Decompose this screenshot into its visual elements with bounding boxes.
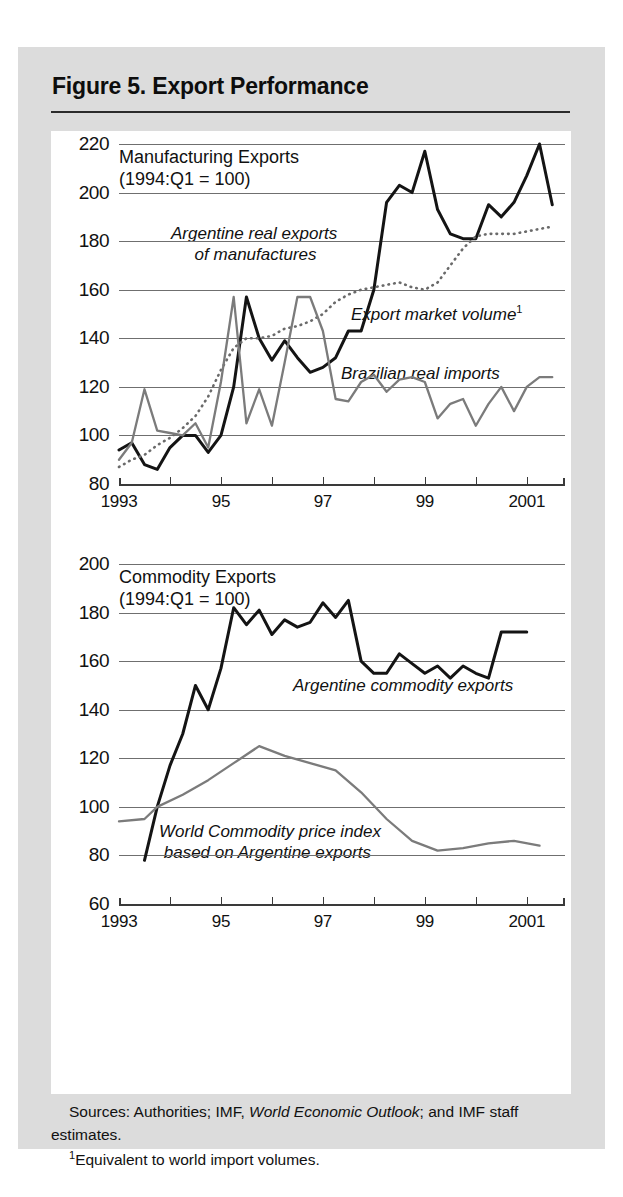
y-axis-tick-label: 80 bbox=[89, 844, 109, 866]
x-axis-tick-label: 1993 bbox=[101, 912, 138, 932]
sources-prefix: Sources: Authorities; IMF, bbox=[69, 1103, 249, 1120]
y-axis-tick-label: 100 bbox=[79, 424, 109, 446]
x-axis-tick-label: 97 bbox=[314, 912, 332, 932]
figure-notes: Sources: Authorities; IMF, World Economi… bbox=[51, 1100, 571, 1171]
chart-manufacturing-exports: Manufacturing Exports (1994:Q1 = 100) Ar… bbox=[51, 131, 571, 551]
title-divider bbox=[51, 111, 570, 113]
page-title: Figure 5. Export Performance bbox=[52, 73, 369, 100]
footnote-1: 1Equivalent to world import volumes. bbox=[51, 1147, 571, 1171]
x-axis-tick-label: 1993 bbox=[101, 492, 138, 512]
chart-commodity-exports: Commodity Exports (1994:Q1 = 100) Argent… bbox=[51, 551, 571, 1001]
y-axis-tick-label: 120 bbox=[79, 747, 109, 769]
y-axis-tick-label: 100 bbox=[79, 796, 109, 818]
series-line-3 bbox=[119, 297, 552, 460]
sources-note: Sources: Authorities; IMF, World Economi… bbox=[51, 1100, 571, 1147]
series-line-1 bbox=[144, 600, 526, 860]
y-axis-tick-label: 120 bbox=[79, 376, 109, 398]
series-line-2 bbox=[119, 227, 552, 467]
x-axis-tick-label: 2001 bbox=[508, 912, 545, 932]
sources-publication: World Economic Outlook bbox=[249, 1103, 420, 1120]
x-axis-tick-label: 99 bbox=[416, 912, 434, 932]
figure-panel: Figure 5. Export Performance Manufacturi… bbox=[18, 47, 605, 1149]
series-layer bbox=[119, 144, 565, 486]
y-axis-tick-label: 160 bbox=[79, 279, 109, 301]
y-axis-tick-label: 140 bbox=[79, 327, 109, 349]
plot-area-commodity: 608010012014016018020019939597992001 bbox=[119, 564, 565, 904]
footnote-text: Equivalent to world import volumes. bbox=[75, 1151, 320, 1168]
series-layer bbox=[119, 564, 565, 906]
plot-area-manufacturing: 8010012014016018020022019939597992001 bbox=[119, 144, 565, 484]
y-axis-tick-label: 140 bbox=[79, 699, 109, 721]
y-axis-tick-label: 220 bbox=[79, 133, 109, 155]
x-axis-tick-label: 95 bbox=[212, 912, 230, 932]
charts-container: Manufacturing Exports (1994:Q1 = 100) Ar… bbox=[51, 131, 571, 1094]
y-axis-tick-label: 200 bbox=[79, 182, 109, 204]
y-axis-tick-label: 200 bbox=[79, 553, 109, 575]
y-axis-tick-label: 180 bbox=[79, 230, 109, 252]
y-axis-tick-label: 160 bbox=[79, 650, 109, 672]
x-axis-tick-label: 99 bbox=[416, 492, 434, 512]
y-axis-tick-label: 180 bbox=[79, 602, 109, 624]
x-axis-tick-label: 95 bbox=[212, 492, 230, 512]
series-line-1 bbox=[119, 144, 552, 469]
x-axis-tick-label: 97 bbox=[314, 492, 332, 512]
series-line-2 bbox=[119, 746, 540, 850]
x-axis-tick-label: 2001 bbox=[508, 492, 545, 512]
